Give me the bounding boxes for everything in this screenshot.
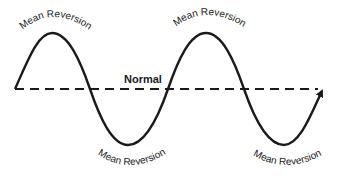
trough-1-label: Mean Reversion	[96, 146, 167, 167]
trough-2-label: Mean Reversion	[252, 147, 323, 167]
peak-1-label: Mean Reversion	[17, 8, 94, 32]
peak-2-label: Mean Reversion	[171, 6, 248, 29]
normal-label: Normal	[124, 73, 162, 85]
mean-reversion-diagram: Normal Mean Reversion Mean Reversion Mea…	[0, 0, 340, 177]
